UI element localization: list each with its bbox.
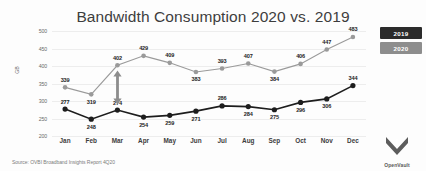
value-label-2019-Oct: 296 — [296, 107, 305, 113]
series-line-2020 — [65, 37, 353, 94]
data-point-2019-Sep[interactable] — [272, 107, 277, 112]
value-label-2020-Dec: 483 — [348, 26, 357, 32]
value-label-2019-Sep: 275 — [270, 114, 279, 120]
value-label-2019-Nov: 306 — [322, 103, 331, 109]
y-axis-tick: 400 — [39, 63, 47, 69]
x-axis-tick-sep: Sep — [269, 137, 281, 144]
data-point-2020-Mar[interactable] — [115, 63, 120, 68]
y-axis-label: GB — [14, 66, 20, 74]
x-axis-tick-feb: Feb — [86, 137, 97, 144]
data-point-2020-Sep[interactable] — [272, 69, 277, 74]
y-axis-tick: 500 — [39, 28, 47, 34]
data-point-2019-Jan[interactable] — [62, 106, 67, 111]
legend: 20192020 — [380, 27, 422, 54]
value-label-2020-Aug: 407 — [244, 53, 253, 59]
x-axis-tick-aug: Aug — [242, 137, 254, 144]
growth-gap-arrow-icon — [113, 70, 122, 105]
legend-item-2019[interactable]: 2019 — [380, 27, 422, 39]
x-axis-tick-may: May — [164, 137, 176, 144]
value-label-2020-Sep: 384 — [270, 76, 279, 82]
data-point-2020-Jun[interactable] — [194, 70, 199, 75]
y-axis-tick: 450 — [39, 46, 47, 52]
series-lines — [52, 31, 366, 136]
x-axis-tick-jun: Jun — [190, 137, 201, 144]
value-label-2020-Jun: 383 — [191, 76, 200, 82]
value-label-2020-Mar: 402 — [113, 55, 122, 61]
data-point-2020-Feb[interactable] — [89, 92, 94, 97]
x-axis-tick-jul: Jul — [217, 137, 226, 144]
value-label-2019-Jun: 271 — [191, 116, 200, 122]
data-point-2020-Apr[interactable] — [141, 54, 146, 59]
plot-area: 500450400350300250200 339319402429409383… — [52, 31, 366, 136]
data-point-2020-Nov[interactable] — [324, 47, 329, 52]
value-label-2020-Nov: 447 — [322, 39, 331, 45]
data-point-2019-Aug[interactable] — [246, 104, 251, 109]
data-point-2019-Jun[interactable] — [193, 109, 198, 114]
data-point-2019-Dec[interactable] — [350, 83, 355, 88]
source-note: Source: OVBI Broadband Insights Report 4… — [12, 159, 115, 165]
legend-item-2020[interactable]: 2020 — [380, 42, 422, 54]
y-axis-tick: 200 — [39, 133, 47, 139]
value-label-2020-May: 409 — [165, 52, 174, 58]
data-point-2020-Dec[interactable] — [351, 35, 356, 40]
value-label-2020-Apr: 429 — [139, 45, 148, 51]
chart-slide: Bandwidth Consumption 2020 vs. 2019 GB 5… — [0, 0, 426, 171]
y-axis-tick: 350 — [39, 81, 47, 87]
data-point-2020-Jul[interactable] — [220, 66, 225, 71]
value-label-2019-Apr: 254 — [139, 122, 148, 128]
x-axis-tick-jan: Jan — [60, 137, 71, 144]
data-point-2019-Oct[interactable] — [298, 100, 303, 105]
value-label-2019-May: 259 — [165, 120, 174, 126]
x-axis-tick-mar: Mar — [112, 137, 123, 144]
chevron-down-icon — [386, 137, 408, 157]
data-point-2020-Oct[interactable] — [298, 62, 303, 67]
x-axis-tick-nov: Nov — [321, 137, 333, 144]
data-point-2020-Jan[interactable] — [63, 85, 68, 90]
brand-name: OpenVault — [374, 162, 420, 168]
value-label-2019-Aug: 284 — [244, 111, 253, 117]
data-point-2019-May[interactable] — [167, 113, 172, 118]
value-label-2020-Jan: 339 — [61, 77, 70, 83]
brand-logo: OpenVault — [374, 137, 420, 168]
value-label-2019-Jul: 286 — [218, 95, 227, 101]
series-line-2019 — [65, 86, 353, 120]
data-point-2020-May[interactable] — [167, 61, 172, 66]
x-axis-tick-oct: Oct — [295, 137, 306, 144]
value-label-2020-Oct: 406 — [296, 53, 305, 59]
value-label-2019-Feb: 248 — [87, 124, 96, 130]
y-axis-tick: 300 — [39, 98, 47, 104]
value-label-2019-Dec: 344 — [348, 75, 357, 81]
data-point-2019-Apr[interactable] — [141, 115, 146, 120]
y-axis-tick: 250 — [39, 116, 47, 122]
data-point-2019-Nov[interactable] — [324, 96, 329, 101]
data-point-2019-Jul[interactable] — [219, 103, 224, 108]
value-label-2020-Jul: 393 — [218, 58, 227, 64]
x-axis-tick-dec: Dec — [347, 137, 359, 144]
value-label-2019-Jan: 277 — [61, 99, 70, 105]
x-axis-ticks: JanFebMarAprMayJunJulAugSepOctNovDec — [52, 137, 366, 149]
data-point-2019-Feb[interactable] — [89, 117, 94, 122]
x-axis-tick-apr: Apr — [138, 137, 149, 144]
value-label-2020-Feb: 319 — [87, 99, 96, 105]
data-point-2020-Aug[interactable] — [246, 61, 251, 66]
page-title: Bandwidth Consumption 2020 vs. 2019 — [0, 8, 426, 26]
data-point-2019-Mar[interactable] — [115, 108, 120, 113]
